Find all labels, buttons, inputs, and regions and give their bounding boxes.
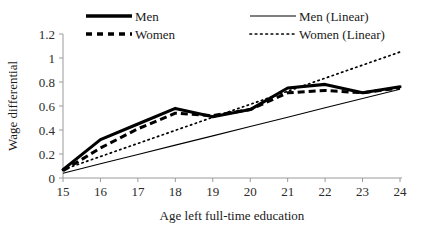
x-tick-label: 18	[169, 184, 182, 199]
x-tick-label: 16	[94, 184, 108, 199]
legend-label-women: Women	[135, 27, 176, 42]
wage-differential-chart: Men Women Men (Linear) Women (Linear)	[0, 0, 423, 227]
y-tick-label: 0	[49, 171, 56, 186]
x-tick-label: 21	[281, 184, 294, 199]
legend-label-men-linear: Men (Linear)	[299, 9, 369, 24]
x-tick-label: 20	[244, 184, 257, 199]
y-tick-label: 0.8	[39, 75, 55, 90]
y-tick-label: 1	[49, 51, 56, 66]
legend-label-women-linear: Women (Linear)	[299, 27, 385, 42]
y-tick-label: 0.2	[39, 147, 55, 162]
x-tick-label: 22	[319, 184, 332, 199]
x-tick-label: 23	[356, 184, 369, 199]
y-tick-label: 0.4	[39, 123, 56, 138]
y-tick-label: 1.2	[39, 27, 55, 42]
x-tick-label: 24	[394, 184, 408, 199]
x-tick-label: 19	[206, 184, 219, 199]
legend-label-men: Men	[135, 9, 159, 24]
x-tick-label: 17	[131, 184, 145, 199]
x-tick-label: 15	[57, 184, 70, 199]
chart-figure: Men Women Men (Linear) Women (Linear)	[0, 0, 423, 227]
x-axis-title: Age left full-time education	[160, 208, 305, 223]
y-tick-label: 0.6	[39, 99, 56, 114]
y-axis-title: Wage differential	[5, 61, 20, 151]
